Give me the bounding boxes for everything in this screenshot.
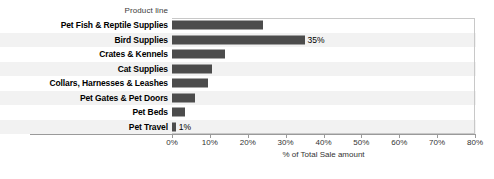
table-row: Cat Supplies xyxy=(0,62,476,77)
bar[interactable] xyxy=(172,21,263,30)
bar-cell: 35% xyxy=(172,33,476,48)
category-label: Pet Gates & Pet Doors xyxy=(0,94,172,103)
bar-chart: Product line Pet Fish & Reptile Supplies… xyxy=(0,0,494,179)
table-row: Collars, Harnesses & Leashes xyxy=(0,76,476,91)
table-row: Pet Fish & Reptile Supplies xyxy=(0,18,476,33)
bar-cell xyxy=(172,76,476,91)
table-row: Pet Beds xyxy=(0,105,476,120)
bar[interactable] xyxy=(172,93,195,102)
bar[interactable] xyxy=(172,79,208,88)
bar-value-label: 1% xyxy=(179,123,191,132)
bar-value-label: 35% xyxy=(308,36,325,45)
bar-cell xyxy=(172,47,476,62)
category-label: Cat Supplies xyxy=(0,65,172,74)
table-row: Pet Travel1% xyxy=(0,120,476,135)
category-label: Crates & Kennels xyxy=(0,50,172,59)
x-axis-tick-label: 20% xyxy=(240,139,256,147)
x-axis-tick-label: 80% xyxy=(467,139,483,147)
category-label: Pet Beds xyxy=(0,108,172,117)
bar-cell xyxy=(172,105,476,120)
table-row: Bird Supplies35% xyxy=(0,33,476,48)
bar-cell: 1% xyxy=(172,120,476,135)
table-row: Crates & Kennels xyxy=(0,47,476,62)
x-axis-tick-label: 70% xyxy=(429,139,445,147)
bar-cell xyxy=(172,91,476,106)
category-label: Collars, Harnesses & Leashes xyxy=(0,79,172,88)
x-axis-ticks: 0%10%20%30%40%50%60%70%80% xyxy=(0,134,494,150)
bar[interactable] xyxy=(172,122,176,131)
x-axis-tick-label: 30% xyxy=(278,139,294,147)
bar[interactable] xyxy=(172,64,212,73)
x-axis-tick-label: 50% xyxy=(353,139,369,147)
x-axis-tick-label: 60% xyxy=(391,139,407,147)
chart-rows: Pet Fish & Reptile SuppliesBird Supplies… xyxy=(0,18,476,134)
category-label: Pet Travel xyxy=(0,123,172,132)
bar[interactable] xyxy=(172,50,225,59)
category-label: Pet Fish & Reptile Supplies xyxy=(0,21,172,30)
bar-cell xyxy=(172,18,476,33)
table-row: Pet Gates & Pet Doors xyxy=(0,91,476,106)
bar[interactable] xyxy=(172,108,185,117)
bar[interactable] xyxy=(172,35,305,44)
category-column-header: Product line xyxy=(0,6,172,15)
x-axis-title: % of Total Sale amount xyxy=(172,150,475,159)
x-axis-tick-label: 10% xyxy=(202,139,218,147)
x-axis-tick-label: 40% xyxy=(315,139,331,147)
x-axis-tick-label: 0% xyxy=(166,139,178,147)
category-label: Bird Supplies xyxy=(0,36,172,45)
bar-cell xyxy=(172,62,476,77)
